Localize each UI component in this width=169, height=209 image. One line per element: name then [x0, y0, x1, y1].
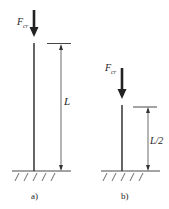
- ground-hatch-a: [15, 173, 55, 181]
- force-arrow-a: [30, 10, 39, 37]
- caption-b: b): [121, 192, 129, 201]
- force-subscript-b: cr: [111, 69, 116, 75]
- caption-a: a): [31, 192, 38, 201]
- length-label-a: L: [64, 96, 70, 107]
- figure-b: [101, 68, 160, 181]
- ground-hatch-b: [103, 173, 143, 181]
- force-subscript-a: cr: [23, 23, 28, 29]
- force-arrow-b: [118, 68, 127, 99]
- figure-a: [12, 10, 71, 181]
- force-label-a: Fcr: [17, 17, 28, 29]
- buckling-columns-diagram: Fcr L a) Fcr L/2 b): [0, 0, 169, 209]
- length-label-b: L/2: [150, 136, 163, 146]
- diagram-drawing: [0, 0, 169, 209]
- force-label-b: Fcr: [105, 63, 116, 75]
